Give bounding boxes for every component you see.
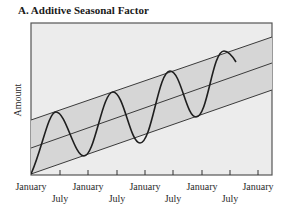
x-tick-label: January	[15, 181, 46, 192]
x-tick-label: January	[186, 181, 217, 192]
x-tick-label: July	[52, 193, 69, 204]
x-tick-label: July	[109, 193, 126, 204]
x-tick-label: January	[129, 181, 160, 192]
x-tick-label: July	[165, 193, 182, 204]
x-tick-label: January	[72, 181, 103, 192]
chart-canvas: Amount January January January January J…	[0, 0, 291, 214]
x-tick-label: January	[242, 181, 273, 192]
x-tick-label: July	[222, 193, 239, 204]
y-axis-label: Amount	[12, 83, 23, 116]
